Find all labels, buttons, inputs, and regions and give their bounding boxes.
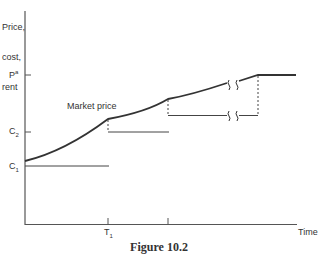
tick-label-pa: Pa xyxy=(9,69,18,80)
x-axis-label: Time xyxy=(298,227,318,237)
tick-label-c1: C1 xyxy=(9,161,19,173)
y-axis-label-line3: rent xyxy=(2,82,25,92)
tick-label-t1: T1 xyxy=(104,227,113,239)
tick-label-c2: C2 xyxy=(9,126,19,138)
figure-caption: Figure 10.2 xyxy=(0,240,318,255)
tick-label-c2-sub: 2 xyxy=(16,132,19,138)
axis-break-top xyxy=(228,80,238,90)
tick-label-c1-sub: 1 xyxy=(16,167,19,173)
y-axis-label-line2: cost, xyxy=(2,52,25,62)
tick-label-pa-sup: a xyxy=(15,69,18,75)
market-price-curve-2 xyxy=(239,75,296,81)
tick-label-t1-sub: 1 xyxy=(110,233,113,239)
axis-break-bottom xyxy=(228,111,238,121)
y-axis-label-line1: Price, xyxy=(2,22,25,32)
market-price-annotation: Market price xyxy=(67,101,117,111)
y-axis-label: Price, cost, rent xyxy=(2,2,25,102)
market-price-curve xyxy=(25,83,227,161)
